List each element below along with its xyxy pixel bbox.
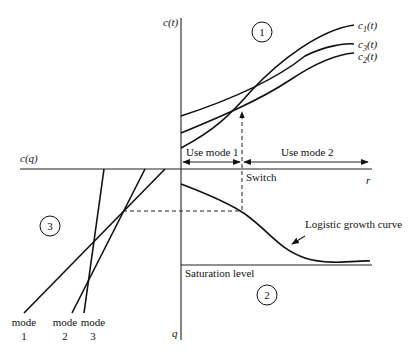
curve-c3 (181, 44, 354, 116)
quadrant-1-marker: 1 (252, 22, 272, 42)
svg-text:3: 3 (47, 220, 53, 232)
logistic-curve-label: Logistic growth curve (305, 218, 402, 230)
switch-label: Switch (246, 171, 277, 183)
svg-text:3: 3 (90, 330, 96, 342)
axis-label-r: r (366, 174, 371, 186)
axis-label-ct: c(t) (163, 16, 179, 29)
use-mode-2-label: Use mode 2 (281, 146, 334, 158)
axis-label-cq: c(q) (20, 152, 38, 165)
svg-text:mode: mode (81, 316, 106, 328)
saturation-level-label: Saturation level (185, 267, 254, 279)
cost-mode-switch-diagram: c(t) c(q) r q 1 2 3 c1(t) c3(t) c2(t) Us… (0, 0, 409, 351)
mode-3-label: mode 3 (81, 316, 106, 342)
svg-text:2: 2 (264, 289, 270, 301)
mode-2-line (72, 169, 145, 313)
mode-1-label: mode 1 (12, 316, 37, 342)
svg-text:mode: mode (53, 316, 78, 328)
svg-text:1: 1 (259, 26, 265, 38)
quadrant-2-marker: 2 (257, 285, 277, 305)
label-c1: c1(t) (358, 19, 378, 34)
use-mode-1-label: Use mode 1 (186, 146, 239, 158)
label-c2: c2(t) (358, 50, 378, 65)
logistic-pointer-arrow (292, 236, 305, 244)
mode-3-line (84, 169, 104, 313)
curve-c2 (181, 53, 354, 133)
mode-2-label: mode 2 (53, 316, 78, 342)
axis-label-q: q (172, 327, 178, 339)
svg-text:mode: mode (12, 316, 37, 328)
curve-c1 (181, 25, 354, 148)
svg-text:2: 2 (62, 330, 68, 342)
svg-text:1: 1 (21, 330, 27, 342)
quadrant-3-marker: 3 (40, 216, 60, 236)
